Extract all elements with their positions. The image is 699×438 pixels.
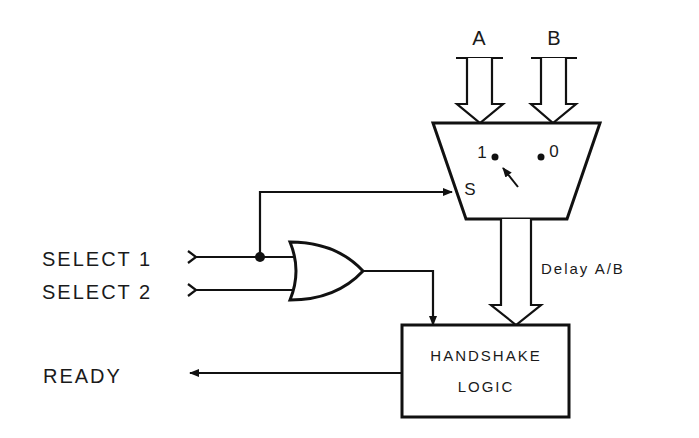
block-diagram: A B 1 0 S Delay A/B HANDSHAKE LOGIC SELE… (0, 0, 699, 438)
select-2-connector-icon (188, 284, 196, 296)
mux-input-1-label: 1 (477, 143, 486, 162)
select-1-label: SELECT 1 (42, 248, 152, 270)
handshake-logic-block (402, 325, 569, 417)
handshake-label-line1: HANDSHAKE (430, 347, 541, 364)
bus-b-arrow (531, 58, 577, 123)
diagram-canvas: A B 1 0 S Delay A/B HANDSHAKE LOGIC SELE… (0, 0, 699, 438)
select-1-connector-icon (188, 251, 196, 263)
bus-a-label: A (472, 27, 486, 49)
bus-b-shaft (531, 58, 576, 123)
bus-b-label: B (547, 27, 560, 49)
ready-label: READY (43, 365, 122, 387)
select-2-label: SELECT 2 (42, 281, 152, 303)
mux-select-label: S (464, 180, 475, 199)
handshake-label-line2: LOGIC (458, 378, 515, 395)
bus-a-arrow (456, 58, 503, 123)
multiplexer (433, 123, 600, 219)
bus-a-shaft (457, 58, 503, 123)
or-output-wire (363, 271, 433, 325)
delay-bus-arrow (491, 219, 541, 325)
mux-select-wire (260, 192, 452, 257)
mux-contact-1 (492, 154, 499, 161)
mux-contact-0 (538, 154, 545, 161)
mux-input-0-label: 0 (549, 142, 558, 161)
or-gate (290, 242, 363, 300)
delay-label: Delay A/B (541, 260, 625, 277)
